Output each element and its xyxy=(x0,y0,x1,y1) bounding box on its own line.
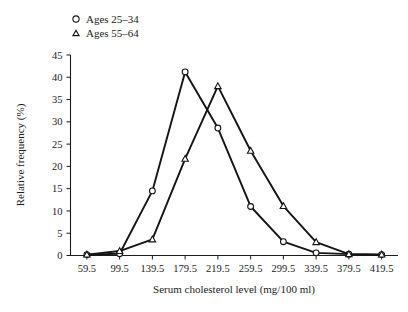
series-group xyxy=(84,69,385,257)
legend: Ages 25–34 Ages 55–64 xyxy=(73,13,139,39)
x-tick-label: 259.5 xyxy=(239,263,263,274)
triangle-marker-icon xyxy=(73,30,79,35)
legend-entry-1: Ages 55–64 xyxy=(73,27,139,39)
x-tick-label: 299.5 xyxy=(272,263,296,274)
x-tick-label: 419.5 xyxy=(370,263,394,274)
y-tick-label: 40 xyxy=(52,72,63,83)
data-point-triangle xyxy=(149,236,155,242)
series-0 xyxy=(84,69,385,257)
x-tick-label: 379.5 xyxy=(337,263,361,274)
y-tick-label: 0 xyxy=(57,250,62,261)
y-axis-title: Relative frequency (%) xyxy=(14,103,27,206)
legend-entry-0: Ages 25–34 xyxy=(73,13,139,25)
data-point-circle xyxy=(248,204,254,210)
x-tick-label: 179.5 xyxy=(173,263,197,274)
y-tick-label: 5 xyxy=(57,228,62,239)
line-chart: Ages 25–34 Ages 55–64 051015202530354045… xyxy=(0,0,408,312)
y-tick-label: 25 xyxy=(52,139,63,150)
data-point-circle xyxy=(313,250,319,256)
data-point-triangle xyxy=(182,155,188,161)
y-tick-label: 30 xyxy=(52,116,63,127)
series-line xyxy=(87,72,382,255)
data-point-triangle xyxy=(215,83,221,89)
series-line xyxy=(87,86,382,254)
series-1 xyxy=(84,83,385,257)
x-tick-label: 59.5 xyxy=(78,263,96,274)
circle-marker-icon xyxy=(73,16,79,22)
x-tick-label: 219.5 xyxy=(206,263,230,274)
x-tick-label: 339.5 xyxy=(304,263,328,274)
data-point-circle xyxy=(182,69,188,75)
y-tick-label: 10 xyxy=(52,206,63,217)
y-tick-label: 45 xyxy=(52,50,63,61)
x-axis-title: Serum cholesterol level (mg/100 ml) xyxy=(153,283,315,296)
x-axis-ticks: 59.599.5139.5179.5219.5259.5299.5339.537… xyxy=(78,256,394,274)
y-tick-label: 20 xyxy=(52,161,63,172)
x-tick-label: 99.5 xyxy=(110,263,128,274)
y-tick-label: 15 xyxy=(52,183,63,194)
data-point-circle xyxy=(149,188,155,194)
data-point-circle xyxy=(215,125,221,131)
y-tick-label: 35 xyxy=(52,94,63,105)
chart-page: Ages 25–34 Ages 55–64 051015202530354045… xyxy=(0,0,408,312)
data-point-circle xyxy=(280,239,286,245)
legend-label: Ages 55–64 xyxy=(86,27,139,39)
legend-label: Ages 25–34 xyxy=(86,13,139,25)
y-axis-ticks: 051015202530354045 xyxy=(52,50,71,262)
x-tick-label: 139.5 xyxy=(141,263,165,274)
